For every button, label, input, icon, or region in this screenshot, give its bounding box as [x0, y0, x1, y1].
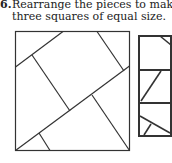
- cut-line: [16, 66, 130, 151]
- big-square: [16, 32, 130, 151]
- cut-line: [32, 55, 70, 111]
- strip-outline: [139, 36, 171, 136]
- piece-line: [141, 71, 161, 101]
- cut-line: [97, 32, 124, 72]
- target-strip: [139, 36, 171, 136]
- cut-line: [39, 133, 50, 151]
- piece-line: [144, 124, 151, 135]
- cut-line: [92, 95, 130, 151]
- piece-line: [160, 36, 171, 45]
- puzzle-figure: [0, 0, 172, 163]
- big-square-outline: [16, 32, 130, 151]
- piece-line: [140, 116, 170, 133]
- cut-line: [16, 32, 64, 68]
